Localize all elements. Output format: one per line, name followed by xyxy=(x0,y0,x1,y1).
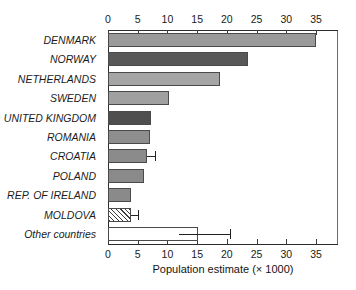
category-label-other-countries: Other countries xyxy=(0,228,96,240)
tick-label-top-10: 10 xyxy=(162,13,174,25)
bar-moldova xyxy=(108,208,131,222)
tick-label-top-15: 15 xyxy=(191,13,203,25)
bar-poland xyxy=(108,169,144,183)
bar-sweden xyxy=(108,91,169,105)
category-label-poland: POLAND xyxy=(0,170,96,182)
tick-label-bottom-35: 35 xyxy=(310,248,322,260)
tick-top-35 xyxy=(316,30,317,35)
tick-label-bottom-25: 25 xyxy=(251,248,263,260)
tick-label-top-35: 35 xyxy=(310,13,322,25)
tick-label-bottom-10: 10 xyxy=(162,248,174,260)
tick-label-top-25: 25 xyxy=(251,13,263,25)
bar-norway xyxy=(108,52,248,66)
tick-bottom-30 xyxy=(286,239,287,244)
bar-denmark xyxy=(108,33,316,47)
tick-bottom-25 xyxy=(257,239,258,244)
tick-label-bottom-5: 5 xyxy=(135,248,141,260)
tick-label-bottom-15: 15 xyxy=(191,248,203,260)
category-label-denmark: DENMARK xyxy=(0,34,96,46)
bar-romania xyxy=(108,130,150,144)
tick-bottom-35 xyxy=(316,239,317,244)
category-label-netherlands: NETHERLANDS xyxy=(0,73,96,85)
category-label-romania: ROMANIA xyxy=(0,131,96,143)
error-bar-cap-other-countries xyxy=(230,229,231,239)
category-label-sweden: SWEDEN xyxy=(0,92,96,104)
bar-chart: 05101520253035 05101520253035 DENMARKNOR… xyxy=(0,0,356,290)
category-label-united-kingdom: UNITED KINGDOM xyxy=(0,112,96,124)
category-label-moldova: MOLDOVA xyxy=(0,209,96,221)
bottom-axis-line xyxy=(108,244,338,245)
bar-netherlands xyxy=(108,72,220,86)
bar-croatia xyxy=(108,149,147,163)
tick-label-top-30: 30 xyxy=(280,13,292,25)
error-bar-line-croatia xyxy=(147,156,155,157)
tick-label-bottom-30: 30 xyxy=(280,248,292,260)
error-bar-cap-croatia xyxy=(155,151,156,161)
bar-rep-of-ireland xyxy=(108,188,131,202)
tick-bottom-20 xyxy=(227,239,228,244)
x-axis-title: Population estimate (× 1000) xyxy=(108,263,338,275)
bar-united-kingdom xyxy=(108,111,151,125)
error-bar-line-other-countries xyxy=(179,234,230,235)
error-bar-cap-moldova xyxy=(138,210,139,220)
error-bar-line-moldova xyxy=(131,215,138,216)
category-label-croatia: CROATIA xyxy=(0,150,96,162)
tick-label-top-5: 5 xyxy=(135,13,141,25)
tick-label-top-0: 0 xyxy=(105,13,111,25)
tick-label-bottom-0: 0 xyxy=(105,248,111,260)
category-label-norway: NORWAY xyxy=(0,53,96,65)
tick-label-top-20: 20 xyxy=(221,13,233,25)
top-axis-line xyxy=(108,30,338,31)
tick-label-bottom-20: 20 xyxy=(221,248,233,260)
category-label-rep-of-ireland: REP. OF IRELAND xyxy=(0,189,96,201)
